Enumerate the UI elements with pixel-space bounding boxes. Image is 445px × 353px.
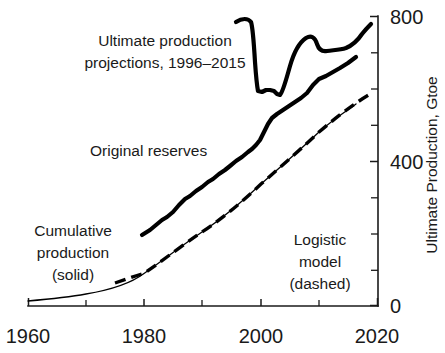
annot-cumulative-line-1: Cumulative: [34, 222, 112, 239]
y-tick-label-400: 400: [390, 151, 423, 173]
annotation-original-reserves: Original reserves: [90, 142, 207, 159]
y-axis-title: Ultimate Production, Gtoe: [423, 76, 440, 253]
x-axis-ticks: [29, 298, 378, 306]
x-tick-label-1960: 1960: [6, 325, 51, 347]
annotation-cumulative-production: Cumulative production (solid): [34, 222, 112, 283]
x-axis-tick-labels: 1960 1980 2000 2020: [6, 325, 400, 347]
x-tick-label-2000: 2000: [239, 325, 284, 347]
chart-canvas: 1960 1980 2000 2020 800 400 0 Ultimate P…: [0, 0, 445, 353]
series-ultimate-production-projections: [236, 19, 371, 95]
y-tick-label-800: 800: [390, 6, 423, 28]
y-axis-ticks: [370, 17, 378, 306]
annot-cumulative-line-2: production: [37, 244, 109, 261]
annot-original-reserves: Original reserves: [90, 142, 207, 159]
x-tick-label-1980: 1980: [122, 325, 167, 347]
annotation-logistic-model: Logistic model (dashed): [289, 231, 350, 292]
y-axis-tick-labels: 800 400 0: [390, 6, 423, 317]
chart-figure: 1960 1980 2000 2020 800 400 0 Ultimate P…: [0, 0, 445, 353]
annot-logistic-line-3: (dashed): [289, 275, 350, 292]
x-tick-label-2020: 2020: [355, 325, 400, 347]
annot-logistic-line-2: model: [299, 253, 341, 270]
annot-logistic-line-1: Logistic: [294, 231, 347, 248]
annot-projections-line-1: Ultimate production: [98, 32, 232, 49]
annotation-ultimate-production-projections: Ultimate production projections, 1996–20…: [84, 32, 245, 71]
annot-projections-line-2: projections, 1996–2015: [84, 54, 245, 71]
annot-cumulative-line-3: (solid): [52, 266, 94, 283]
y-tick-label-0: 0: [390, 295, 401, 317]
